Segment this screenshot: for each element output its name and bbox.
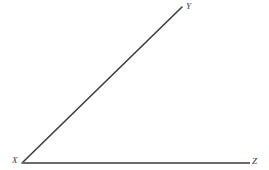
ray-x-to-y [22,7,182,163]
vertex-label-y: Y [186,2,191,11]
vertex-label-x: X [12,156,18,165]
angle-diagram: X Y Z [0,0,269,170]
vertex-label-z: Z [252,157,257,166]
geometry-canvas [0,0,269,170]
